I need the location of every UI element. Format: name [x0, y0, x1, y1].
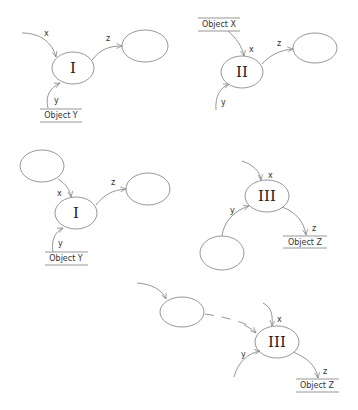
process-diagram: x y I z Object Y Object X x y II z x y I: [0, 0, 358, 410]
empty-output-node: [122, 30, 168, 62]
output-z-label: z: [323, 367, 327, 376]
object-x-label: Object X: [202, 20, 237, 29]
input-x-label: x: [44, 29, 49, 38]
process-label: II: [236, 63, 248, 81]
panel-2: Object X x y II z: [198, 18, 337, 110]
panel-4: x III y z Object Z: [200, 161, 327, 270]
input-y-label: y: [221, 98, 226, 107]
output-z-label: z: [277, 39, 281, 48]
input-x-arrow: [242, 161, 261, 180]
input-x-label: x: [268, 171, 273, 180]
dashed-connection-arrowhead: [244, 325, 256, 333]
input-y-label: y: [54, 96, 59, 105]
panel-1: x y I z Object Y: [22, 29, 168, 122]
empty-input-node: [160, 297, 204, 327]
input-x-label: x: [277, 315, 282, 324]
object-y-label: Object Y: [49, 254, 83, 263]
process-label: I: [73, 204, 79, 222]
object-z-label: Object Z: [300, 381, 335, 390]
output-z-arrow: [282, 207, 306, 235]
input-x-arrow: [22, 33, 56, 57]
output-z-label: z: [106, 34, 110, 43]
input-x-label: x: [57, 189, 62, 198]
input-x-arrow: [228, 31, 244, 56]
output-z-arrow: [293, 352, 318, 378]
incoming-arrow: [137, 283, 166, 299]
output-z-arrow: [92, 46, 122, 60]
process-label: I: [70, 59, 76, 77]
panel-5: x III y z Object Z: [137, 283, 339, 392]
object-y-label: Object Y: [44, 111, 78, 120]
input-y-arrow: [222, 206, 249, 236]
empty-output-node: [293, 33, 337, 63]
input-y-label: y: [241, 350, 246, 359]
process-label: III: [258, 187, 276, 205]
output-z-arrow: [262, 49, 293, 64]
empty-input-node: [200, 236, 244, 270]
object-z-label: Object Z: [288, 238, 323, 247]
panel-3: x y I z Object Y: [20, 150, 170, 265]
empty-input-node: [20, 150, 64, 182]
input-y-arrow: [234, 351, 260, 377]
output-z-label: z: [312, 224, 316, 233]
dashed-connection: [205, 314, 248, 325]
input-y-label: y: [230, 206, 235, 215]
input-y-label: y: [58, 239, 63, 248]
output-z-arrow: [96, 189, 126, 205]
process-label: III: [268, 333, 286, 351]
input-x-arrow: [263, 303, 272, 326]
input-x-label: x: [249, 45, 254, 54]
output-z-label: z: [111, 178, 115, 187]
empty-output-node: [126, 173, 170, 205]
